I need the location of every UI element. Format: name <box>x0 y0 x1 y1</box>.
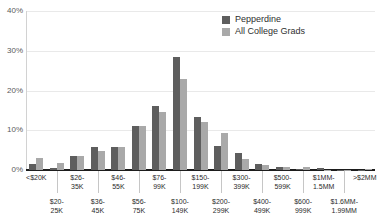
bar[interactable] <box>255 164 262 170</box>
income-distribution-bar-chart: 0%10%20%30%40% PepperdineAll College Gra… <box>0 0 381 222</box>
bar[interactable] <box>344 170 351 171</box>
y-axis-tick-label: 30% <box>0 47 23 55</box>
bar[interactable] <box>152 106 159 170</box>
bar[interactable] <box>276 167 283 170</box>
legend-item[interactable]: Pepperdine <box>222 15 305 24</box>
bar[interactable] <box>221 133 228 170</box>
bar-group <box>129 11 150 170</box>
bar[interactable] <box>358 170 365 171</box>
bar-groups <box>26 11 375 170</box>
legend-label: Pepperdine <box>235 15 281 24</box>
bar-group <box>26 11 47 170</box>
bar[interactable] <box>98 151 105 170</box>
bar[interactable] <box>77 156 84 170</box>
bar[interactable] <box>139 126 146 170</box>
bar[interactable] <box>57 163 64 170</box>
bar-group <box>355 11 376 170</box>
bar[interactable] <box>242 159 249 170</box>
legend-swatch-icon <box>222 16 230 24</box>
bar-group <box>88 11 109 170</box>
bar[interactable] <box>111 147 118 170</box>
bar-group <box>108 11 129 170</box>
x-axis-tick-label: >$2MM <box>342 174 381 183</box>
bar[interactable] <box>317 168 324 170</box>
bar[interactable] <box>159 112 166 170</box>
bar[interactable] <box>303 167 310 170</box>
bar[interactable] <box>365 169 372 170</box>
bar[interactable] <box>50 168 57 170</box>
bar-group <box>190 11 211 170</box>
bar[interactable] <box>283 167 290 170</box>
bar[interactable] <box>235 153 242 170</box>
y-axis-tick-label: 20% <box>0 87 23 95</box>
bar-group <box>334 11 355 170</box>
bar[interactable] <box>194 117 201 170</box>
bar[interactable] <box>118 147 125 170</box>
legend-label: All College Grads <box>235 27 305 36</box>
bar[interactable] <box>36 158 43 170</box>
bar[interactable] <box>214 146 221 170</box>
bar-group <box>313 11 334 170</box>
bar-group <box>149 11 170 170</box>
y-axis-tick-label: 10% <box>0 126 23 134</box>
bar-group <box>67 11 88 170</box>
bar-group <box>170 11 191 170</box>
bar[interactable] <box>29 164 36 170</box>
legend-item[interactable]: All College Grads <box>222 27 305 36</box>
x-axis-tick-group: >$2MM <box>342 171 381 222</box>
y-axis-tick-label: 40% <box>0 7 23 15</box>
bar[interactable] <box>201 122 208 170</box>
bar[interactable] <box>337 170 344 171</box>
bar[interactable] <box>296 169 303 170</box>
x-axis-tick-labels: <$20K$20- 25K$26- 35K$36- 45K$46- 55K$56… <box>26 171 375 222</box>
bar[interactable] <box>132 126 139 170</box>
chart-legend: PepperdineAll College Grads <box>222 15 305 36</box>
bar[interactable] <box>91 147 98 170</box>
legend-swatch-icon <box>222 28 230 36</box>
bar[interactable] <box>262 165 269 170</box>
bar[interactable] <box>324 170 331 171</box>
bar-group <box>47 11 68 170</box>
bar[interactable] <box>173 57 180 170</box>
bar[interactable] <box>180 79 187 170</box>
bar[interactable] <box>70 156 77 170</box>
